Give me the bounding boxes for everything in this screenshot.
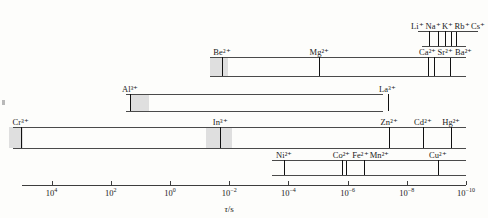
axis-tick-mantissa-1: 10 <box>105 188 114 198</box>
ion-label-co: Co²⁺ <box>333 151 351 160</box>
band-shading-alkaline-earth-0 <box>210 57 228 76</box>
ion-tick-sr <box>434 57 435 76</box>
ion-label-ni: Ni²⁺ <box>276 151 292 160</box>
axis-tick-5 <box>348 181 349 185</box>
band-rule-trivalent-heavy-bottom <box>13 148 466 149</box>
axis-tick-label-1: 102 <box>105 188 117 198</box>
axis-tick-3 <box>229 181 230 185</box>
ion-label-mn: Mn²⁺ <box>370 151 390 160</box>
ion-tick-cs <box>456 31 457 46</box>
axis-tick-mantissa-3: 10 <box>222 188 231 198</box>
ion-tick-fe <box>346 160 347 175</box>
leader-line-ba <box>450 57 464 58</box>
ion-label-cd: Cd²⁺ <box>414 118 432 127</box>
axis-tick-mantissa-0: 10 <box>46 188 55 198</box>
ion-label-sr: Sr²⁺ <box>438 48 454 57</box>
leader-line-na <box>433 31 438 32</box>
axis-tick-mantissa-4: 10 <box>281 188 290 198</box>
axis-tick-exponent-6: −8 <box>408 187 414 193</box>
ion-label-ba: Ba²⁺ <box>455 48 472 57</box>
band-rule-trivalent-heavy-top <box>13 127 466 128</box>
band-rule-transition-bottom <box>272 175 466 176</box>
axis-tick-mantissa-5: 10 <box>340 188 349 198</box>
axis-tick-label-4: 10−4 <box>281 188 296 198</box>
band-rule-alkaline-earth-bottom <box>210 76 466 77</box>
leader-line-k <box>445 31 447 32</box>
axis-tick-7 <box>466 181 467 185</box>
ion-label-zn: Zn²⁺ <box>381 118 398 127</box>
axis-tick-label-7: 10−10 <box>457 188 475 198</box>
ion-tick-zn <box>389 127 390 148</box>
axis-tick-exponent-0: 4 <box>54 187 57 193</box>
axis-tick-1 <box>111 181 112 185</box>
water-exchange-time-figure: Li⁺Na⁺K⁺Rb⁺Cs⁺Be²⁺Mg²⁺Ca²⁺Sr²⁺Ba²⁺Al³⁺La… <box>0 0 488 218</box>
ion-tick-co <box>342 160 343 175</box>
ion-label-cs: Cs⁺ <box>471 22 485 31</box>
ion-tick-mg <box>319 57 320 76</box>
page-margin-speck <box>2 100 5 105</box>
band-shading-trivalent-heavy-1 <box>206 127 233 148</box>
ion-tick-mn <box>364 160 365 175</box>
axis-tick-label-2: 100 <box>164 188 176 198</box>
axis-tick-label-0: 104 <box>46 188 58 198</box>
axis-tick-label-3: 10−2 <box>222 188 237 198</box>
leader-line-fe <box>346 160 360 161</box>
ion-tick-ca <box>428 57 429 76</box>
axis-tick-0 <box>52 181 53 185</box>
axis-title-unit: /s <box>228 204 234 214</box>
axis-tick-exponent-3: −2 <box>230 187 236 193</box>
band-shading-trivalent-main-0 <box>130 94 149 111</box>
axis-tick-label-5: 10−6 <box>340 188 355 198</box>
ion-label-la: La³⁺ <box>379 85 396 94</box>
ion-label-k: K⁺ <box>442 22 453 31</box>
leader-line-cs <box>456 31 478 32</box>
ion-tick-hg <box>451 127 452 148</box>
ion-label-na: Na⁺ <box>426 22 441 31</box>
ion-label-li: Li⁺ <box>411 22 424 31</box>
ion-tick-in <box>220 127 221 148</box>
ion-tick-li <box>429 31 430 46</box>
ion-label-hg: Hg²⁺ <box>442 118 460 127</box>
axis-tick-exponent-4: −4 <box>289 187 295 193</box>
axis-tick-2 <box>170 181 171 185</box>
ion-label-ca: Ca²⁺ <box>419 48 436 57</box>
axis-tick-mantissa-2: 10 <box>164 188 173 198</box>
ion-label-in: In³⁺ <box>213 118 228 127</box>
ion-tick-rb <box>451 31 452 46</box>
ion-tick-na <box>438 31 439 46</box>
axis-tick-4 <box>288 181 289 185</box>
ion-tick-ni <box>284 160 285 175</box>
axis-tick-mantissa-6: 10 <box>399 188 408 198</box>
ion-tick-cd <box>423 127 424 148</box>
axis-line <box>22 185 466 186</box>
axis-tick-exponent-5: −6 <box>349 187 355 193</box>
ion-tick-cu <box>438 160 439 175</box>
ion-label-fe: Fe²⁺ <box>352 151 368 160</box>
ion-tick-cr <box>21 127 22 148</box>
axis-tick-exponent-7: −10 <box>466 187 475 193</box>
ion-tick-al <box>130 94 131 111</box>
axis-tick-mantissa-7: 10 <box>457 188 466 198</box>
ion-label-al: Al³⁺ <box>122 85 138 94</box>
ion-label-cu: Cu²⁺ <box>429 151 447 160</box>
axis-tick-6 <box>407 181 408 185</box>
band-rule-trivalent-main-bottom <box>126 111 384 112</box>
ion-label-mg: Mg²⁺ <box>309 48 329 57</box>
leader-line-sr <box>434 57 445 58</box>
axis-tick-label-6: 10−8 <box>399 188 414 198</box>
axis-tick-exponent-2: 0 <box>173 187 176 193</box>
ion-tick-la <box>388 94 389 111</box>
band-rule-trivalent-main-top <box>126 94 384 95</box>
axis-title: τ/s <box>225 204 234 214</box>
ion-label-rb: Rb⁺ <box>455 22 470 31</box>
ion-label-be: Be²⁺ <box>213 48 230 57</box>
ion-tick-k <box>445 31 446 46</box>
axis-tick-exponent-1: 2 <box>114 187 117 193</box>
ion-label-cr: Cr³⁺ <box>13 118 29 127</box>
leader-line-li <box>418 31 430 32</box>
ion-tick-ba <box>450 57 451 76</box>
ion-tick-be <box>222 57 223 76</box>
